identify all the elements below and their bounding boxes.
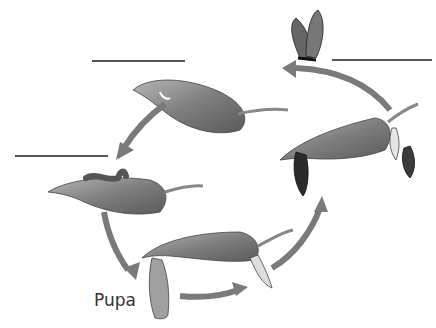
pupa-leaf <box>142 230 293 319</box>
egg-label-blank[interactable] <box>92 60 185 62</box>
life-cycle-diagram <box>0 0 436 328</box>
caterpillar-icon <box>86 172 126 179</box>
butterfly-icon <box>292 10 323 60</box>
egg-leaf <box>133 80 288 133</box>
pupa-label: Pupa <box>94 290 136 310</box>
larva-leaf <box>48 172 203 215</box>
chrysalis-icon <box>149 258 168 319</box>
emergence-leaf <box>280 104 418 196</box>
adult-label-blank[interactable] <box>332 59 432 61</box>
larva-label-blank[interactable] <box>15 155 108 157</box>
